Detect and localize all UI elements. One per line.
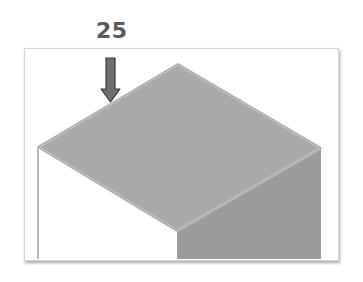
isometric-box-illustration [0, 0, 363, 282]
arrow-down-icon [101, 58, 120, 102]
